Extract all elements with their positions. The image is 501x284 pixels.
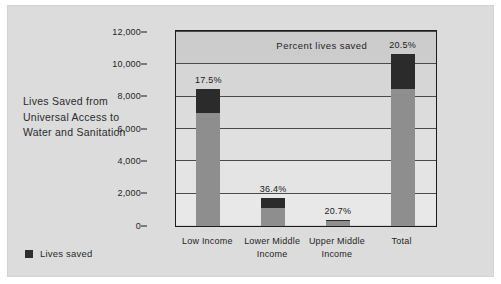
- y-tick-label: 4,000: [117, 156, 141, 166]
- bar-segment-lives-saved: [391, 54, 415, 89]
- bar-segment-lives-saved: [261, 198, 285, 208]
- bar-value-label: 36.4%: [260, 184, 287, 194]
- legend-label-lives-saved: Lives saved: [40, 248, 92, 259]
- y-tick-label: 12,000: [112, 27, 141, 37]
- bar-2: [261, 198, 285, 226]
- y-axis: 02,0004,0006,0008,00010,00012,000: [8, 30, 175, 227]
- plot-area: 17.5%36.4%20.7%20.5% Percent lives saved: [175, 30, 437, 227]
- bar-4: [391, 54, 415, 226]
- bar-segment-lives-saved: [196, 89, 220, 113]
- x-tick-label: Lower Middle Income: [235, 235, 310, 261]
- bar-series: 17.5%36.4%20.7%20.5%: [176, 31, 436, 226]
- bar-value-label: 17.5%: [195, 75, 222, 85]
- x-tick-label: Total: [364, 235, 439, 248]
- chart-legend: Lives saved: [25, 248, 92, 259]
- y-tick-mark: [141, 96, 147, 97]
- bar-value-label: 20.5%: [389, 40, 416, 50]
- y-tick-label: 6,000: [117, 124, 141, 134]
- x-tick-label: Upper Middle Income: [300, 235, 375, 261]
- y-tick-mark: [141, 63, 147, 64]
- bar-3: [326, 220, 350, 226]
- bar-1: [196, 89, 220, 226]
- chart-annotation: Percent lives saved: [276, 40, 367, 51]
- bar-value-label: 20.7%: [325, 206, 352, 216]
- y-tick-mark: [141, 160, 147, 161]
- x-axis: Low IncomeLower Middle IncomeUpper Middl…: [175, 231, 437, 277]
- x-tick-label: Low Income: [170, 235, 245, 248]
- y-tick-mark: [141, 31, 147, 32]
- y-tick-label: 10,000: [112, 59, 141, 69]
- y-tick-mark: [141, 128, 147, 129]
- y-tick-label: 2,000: [117, 188, 141, 198]
- lives-saved-swatch: [25, 250, 33, 258]
- y-tick-mark: [141, 225, 147, 226]
- y-tick-label: 8,000: [117, 91, 141, 101]
- y-tick-mark: [141, 193, 147, 194]
- figure-panel: Lives Saved from Universal Access to Wat…: [8, 6, 493, 276]
- bar-segment-lives-saved: [326, 220, 350, 221]
